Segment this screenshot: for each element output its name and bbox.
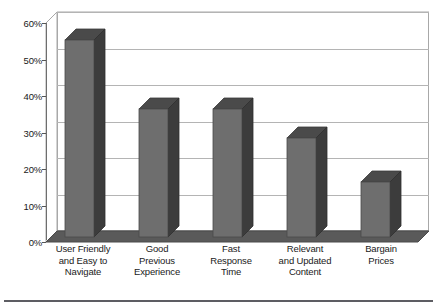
x-label-line: Prices bbox=[336, 255, 426, 267]
x-label-bargain-prices: Bargain Prices bbox=[336, 243, 426, 266]
bar-relevant-updated-content[interactable] bbox=[287, 125, 327, 237]
y-axis-labels: 60% 50% 40% 30% 20% 10% 0% bbox=[0, 0, 46, 240]
y-tick-label-20: 20% bbox=[24, 164, 42, 175]
y-tick-label-40: 40% bbox=[24, 91, 42, 102]
bars-container bbox=[46, 12, 429, 240]
x-label-line: Bargain bbox=[336, 243, 426, 255]
y-tick-label-50: 50% bbox=[24, 54, 42, 65]
bar-bargain-prices[interactable] bbox=[361, 169, 401, 237]
bottom-divider bbox=[4, 300, 433, 302]
x-label-line: Content bbox=[260, 266, 350, 278]
bar-user-friendly[interactable] bbox=[65, 27, 105, 237]
y-tick-label-30: 30% bbox=[24, 127, 42, 138]
y-tick-label-60: 60% bbox=[24, 18, 42, 29]
bar-fast-response-time[interactable] bbox=[213, 96, 253, 237]
y-tick-label-10: 10% bbox=[24, 200, 42, 211]
plot-area bbox=[46, 12, 429, 240]
bar-chart-figure: 60% 50% 40% 30% 20% 10% 0% User Friendly… bbox=[0, 0, 437, 308]
y-axis-line bbox=[46, 23, 47, 240]
bar-good-previous-experience[interactable] bbox=[139, 96, 179, 237]
x-axis-labels: User Friendly and Easy to Navigate Good … bbox=[46, 243, 429, 295]
